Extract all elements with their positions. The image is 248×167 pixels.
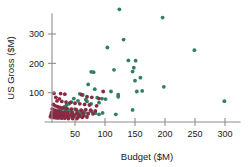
- data-point: [67, 117, 71, 121]
- data-point: [104, 97, 108, 101]
- data-point: [70, 107, 74, 111]
- x-tick-label: 250: [187, 129, 202, 139]
- data-point: [85, 100, 89, 104]
- x-tick-label: 200: [157, 129, 172, 139]
- data-point: [89, 108, 93, 112]
- data-point: [54, 95, 58, 99]
- axes-layer: [45, 14, 240, 122]
- y-axis-title: US Gross ($M): [5, 36, 16, 99]
- data-point: [68, 101, 72, 105]
- data-point: [223, 99, 227, 103]
- data-point: [140, 89, 144, 93]
- data-point: [97, 112, 101, 116]
- data-point: [86, 112, 90, 116]
- data-point: [72, 97, 76, 101]
- x-axis-title: Budget ($M): [121, 151, 173, 162]
- data-point: [94, 109, 98, 113]
- data-point: [134, 59, 138, 63]
- data-point: [122, 38, 126, 42]
- data-point: [161, 16, 165, 20]
- data-point: [132, 66, 136, 70]
- x-axis-ticks: 50100150200250300: [70, 118, 233, 139]
- data-point: [80, 93, 84, 97]
- data-point: [55, 99, 59, 103]
- data-point: [95, 104, 99, 108]
- data-point: [90, 95, 94, 99]
- data-point: [78, 102, 82, 106]
- y-tick-label: 300: [29, 29, 44, 39]
- data-point: [85, 115, 89, 119]
- data-point: [61, 106, 65, 110]
- data-point: [193, 48, 197, 52]
- x-tick-label: 100: [97, 129, 112, 139]
- data-point: [86, 83, 90, 87]
- data-point: [131, 108, 135, 112]
- data-point: [101, 111, 105, 115]
- data-point: [131, 70, 135, 74]
- data-point: [60, 100, 64, 104]
- data-point: [114, 112, 118, 116]
- data-point: [65, 107, 69, 111]
- data-point: [88, 103, 92, 107]
- data-point: [139, 76, 143, 80]
- y-tick-label: 200: [29, 59, 44, 69]
- data-point: [84, 108, 88, 112]
- plot-canvas: 100200300 50100150200250300 Budget ($M) …: [0, 0, 248, 167]
- data-point: [109, 90, 113, 94]
- data-point: [73, 101, 77, 105]
- data-point: [74, 108, 78, 112]
- data-point: [97, 101, 101, 105]
- data-point: [71, 117, 75, 121]
- data-point: [59, 92, 63, 96]
- data-point: [83, 103, 87, 107]
- data-point: [64, 100, 68, 104]
- data-point: [93, 87, 97, 91]
- data-point: [85, 95, 89, 99]
- data-point: [112, 68, 116, 72]
- series-maroon-series: [49, 90, 106, 121]
- y-tick-label: 100: [29, 88, 44, 98]
- x-tick-label: 300: [217, 129, 232, 139]
- data-point: [133, 79, 137, 83]
- data-point: [106, 46, 110, 50]
- data-point: [63, 116, 67, 120]
- data-point: [118, 7, 122, 11]
- data-point: [92, 70, 96, 74]
- data-point: [97, 97, 101, 101]
- data-point: [63, 92, 67, 96]
- data-points-layer: [49, 7, 227, 120]
- data-point: [162, 85, 166, 89]
- data-point: [135, 90, 139, 94]
- data-point: [80, 115, 84, 119]
- x-tick-label: 150: [127, 129, 142, 139]
- data-point: [126, 59, 130, 63]
- data-point: [116, 95, 120, 99]
- x-tick-label: 50: [70, 129, 80, 139]
- data-point: [91, 112, 95, 116]
- data-point: [52, 91, 56, 95]
- data-point: [101, 90, 105, 94]
- scatter-plot-figure: 100200300 50100150200250300 Budget ($M) …: [0, 0, 248, 167]
